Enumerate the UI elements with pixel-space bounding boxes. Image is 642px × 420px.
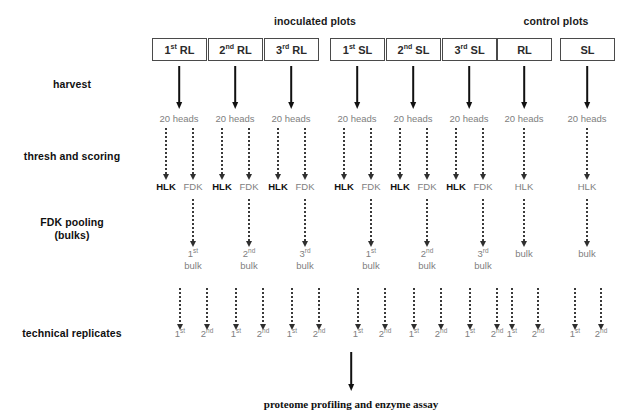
pooling-arrow-ctrl_rl: [523, 199, 525, 241]
bulk-label-sl3: 3rdbulk: [474, 248, 491, 271]
fraction-label-sl1-fdk: FDK: [362, 181, 381, 192]
harvest-arrow-ctrl_sl: [586, 66, 588, 102]
thresh-arrow-rl1-fdk: [192, 128, 194, 174]
fraction-label-sl1-hlk: HLK: [334, 181, 354, 192]
harvest-arrow-ctrl_rl: [523, 66, 525, 102]
heads-label-rl3: 20 heads: [271, 113, 310, 124]
fraction-label-rl2-fdk: FDK: [240, 181, 259, 192]
plot-box-rl3[interactable]: 3rd RL: [264, 38, 319, 61]
plot-box-ctrl_rl[interactable]: RL: [497, 38, 552, 61]
replicate-label-ctrl_rl-1: 1st: [507, 328, 517, 339]
replicate-label-sl1-1: 1st: [353, 328, 363, 339]
row-label-thresh-and-scoring: thresh and scoring: [0, 150, 152, 163]
thresh-arrow-sl3-fdk: [482, 128, 484, 174]
fraction-label-ctrl_rl-hlk: HLK: [515, 181, 533, 192]
replicate-arrow-ctrl_rl-2: [537, 288, 539, 324]
replicate-label-rl3-2: 2nd: [313, 328, 326, 339]
replicate-arrow-rl3-1: [291, 288, 293, 324]
harvest-arrow-rl1: [178, 66, 180, 102]
row-label-fdk-pooling: FDK pooling(bulks): [0, 216, 152, 242]
thresh-arrow-sl1-fdk: [370, 128, 372, 174]
thresh-arrow-sl1-hlk: [343, 128, 345, 174]
replicate-arrow-rl3-2: [318, 288, 320, 324]
harvest-arrow-sl3: [468, 66, 470, 102]
fraction-label-rl2-hlk: HLK: [212, 181, 232, 192]
workflow-diagram: inoculated plotscontrol plotsharvestthre…: [0, 0, 642, 420]
pooling-arrow-sl3: [482, 199, 484, 241]
group-header-1: inoculated plots: [225, 15, 405, 27]
replicate-label-sl1-2: 2nd: [379, 328, 392, 339]
pooling-arrow-rl3: [304, 199, 306, 241]
bulk-label-sl1: 1stbulk: [362, 248, 379, 271]
harvest-arrow-rl3: [290, 66, 292, 102]
replicate-arrow-rl2-1: [235, 288, 237, 324]
row-label-harvest: harvest: [0, 78, 152, 91]
replicate-label-rl1-1: 1st: [175, 328, 185, 339]
replicate-label-rl3-1: 1st: [287, 328, 297, 339]
bulk-label-ctrl_sl: bulk: [578, 248, 595, 260]
replicate-arrow-sl2-2: [440, 288, 442, 324]
replicate-label-sl3-2: 2nd: [491, 328, 504, 339]
thresh-arrow-rl1-hlk: [165, 128, 167, 174]
fraction-label-ctrl_sl-hlk: HLK: [578, 181, 596, 192]
replicate-arrow-rl1-1: [179, 288, 181, 324]
replicate-arrow-rl1-2: [206, 288, 208, 324]
replicate-arrow-sl1-2: [384, 288, 386, 324]
fraction-label-rl3-hlk: HLK: [268, 181, 288, 192]
replicate-arrow-rl2-2: [262, 288, 264, 324]
pooling-arrow-rl1: [192, 199, 194, 241]
replicate-label-rl2-1: 1st: [231, 328, 241, 339]
heads-label-rl2: 20 heads: [215, 113, 254, 124]
plot-box-sl2[interactable]: 2nd SL: [386, 38, 441, 61]
replicate-label-ctrl_rl-2: 2nd: [532, 328, 545, 339]
replicate-arrow-sl2-1: [413, 288, 415, 324]
replicate-arrow-sl3-1: [469, 288, 471, 324]
pooling-arrow-rl2: [248, 199, 250, 241]
pooling-arrow-sl1: [370, 199, 372, 241]
fraction-label-sl2-hlk: HLK: [390, 181, 410, 192]
thresh-arrow-rl3-hlk: [277, 128, 279, 174]
row-label-technical-replicates: technical replicates: [0, 327, 152, 340]
replicate-label-rl1-2: 2nd: [201, 328, 214, 339]
fraction-label-sl2-fdk: FDK: [418, 181, 437, 192]
replicate-label-ctrl_sl-1: 1st: [570, 328, 580, 339]
plot-box-rl2[interactable]: 2nd RL: [208, 38, 263, 61]
heads-label-sl2: 20 heads: [393, 113, 432, 124]
replicate-label-sl2-1: 1st: [409, 328, 419, 339]
replicate-arrow-ctrl_rl-1: [511, 288, 513, 324]
fraction-label-sl3-fdk: FDK: [474, 181, 493, 192]
bulk-label-rl2: 2ndbulk: [240, 248, 257, 271]
plot-box-rl1[interactable]: 1st RL: [152, 38, 207, 61]
fraction-label-rl3-fdk: FDK: [296, 181, 315, 192]
replicate-arrow-sl3-2: [496, 288, 498, 324]
replicate-label-sl2-2: 2nd: [435, 328, 448, 339]
final-arrow: [350, 352, 352, 384]
plot-box-sl3[interactable]: 3rd SL: [442, 38, 497, 61]
thresh-arrow-rl3-fdk: [304, 128, 306, 174]
heads-label-rl1: 20 heads: [159, 113, 198, 124]
replicate-arrow-ctrl_sl-1: [574, 288, 576, 324]
thresh-arrow-ctrl_sl-hlk: [586, 128, 588, 174]
thresh-arrow-rl2-fdk: [248, 128, 250, 174]
harvest-arrow-sl1: [356, 66, 358, 102]
replicate-arrow-sl1-1: [357, 288, 359, 324]
bulk-label-sl2: 2ndbulk: [418, 248, 435, 271]
thresh-arrow-sl3-hlk: [455, 128, 457, 174]
replicate-label-ctrl_sl-2: 2nd: [595, 328, 608, 339]
plot-box-sl1[interactable]: 1st SL: [330, 38, 385, 61]
pooling-arrow-ctrl_sl: [586, 199, 588, 241]
harvest-arrow-sl2: [412, 66, 414, 102]
thresh-arrow-sl2-fdk: [426, 128, 428, 174]
fraction-label-rl1-hlk: HLK: [156, 181, 176, 192]
harvest-arrow-rl2: [234, 66, 236, 102]
thresh-arrow-sl2-hlk: [399, 128, 401, 174]
replicate-label-sl3-1: 1st: [465, 328, 475, 339]
bulk-label-rl1: 1stbulk: [184, 248, 201, 271]
pooling-arrow-sl2: [426, 199, 428, 241]
fraction-label-rl1-fdk: FDK: [184, 181, 203, 192]
heads-label-sl3: 20 heads: [449, 113, 488, 124]
bulk-label-ctrl_rl: bulk: [515, 248, 532, 260]
group-header-2: control plots: [466, 15, 642, 27]
plot-box-ctrl_sl[interactable]: SL: [560, 38, 615, 61]
fraction-label-sl3-hlk: HLK: [446, 181, 466, 192]
